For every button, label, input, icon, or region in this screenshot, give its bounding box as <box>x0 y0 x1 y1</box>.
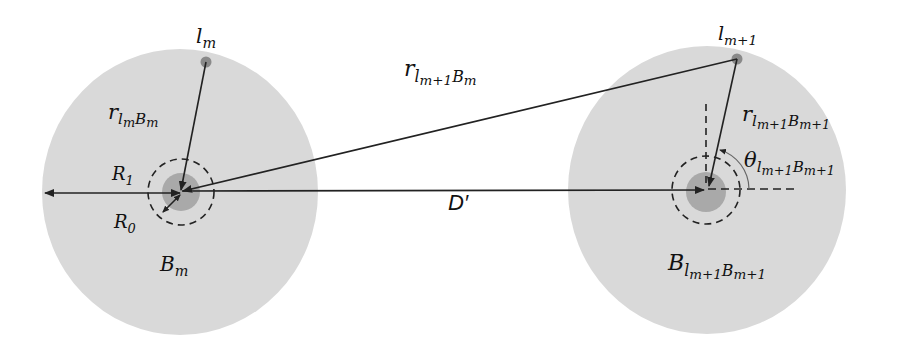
label-cross-distance: rlm+1Bm <box>404 58 477 87</box>
label-distance-lm-bm: rlmBm <box>108 102 158 130</box>
label-cell-bm1: Blm+1Bm+1 <box>668 252 766 281</box>
label-angle-theta: θlm+1Bm+1 <box>744 150 835 178</box>
separation-arrow-d-prime <box>182 190 704 191</box>
label-cell-bm: Bm <box>160 254 188 278</box>
label-radius-r0: R0 <box>114 213 136 235</box>
label-radius-r1: R1 <box>112 165 134 187</box>
cell-left <box>42 49 318 335</box>
label-user-lm1: lm+1 <box>718 24 757 47</box>
label-user-lm: lm <box>196 26 216 50</box>
label-separation-d-prime: D′ <box>448 192 468 214</box>
label-distance-lm1-bm1: rlm+1Bm+1 <box>742 104 830 132</box>
cell-left-inner-zone <box>162 173 200 211</box>
